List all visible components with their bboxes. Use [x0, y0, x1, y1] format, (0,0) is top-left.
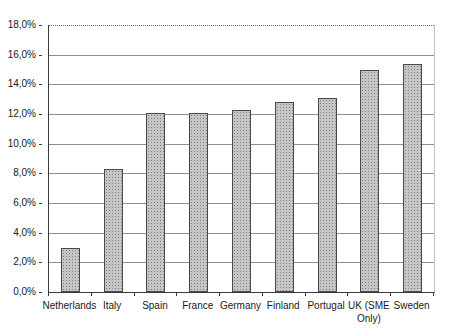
- y-axis-tick-label: 4,0%: [13, 228, 36, 238]
- x-axis-tick: [48, 293, 49, 296]
- y-axis-tick-label: 2,0%: [13, 257, 36, 267]
- x-axis-tick: [347, 293, 348, 296]
- y-axis-tick: [39, 173, 42, 174]
- bar-italy: [104, 169, 123, 292]
- y-axis-tick: [39, 144, 42, 145]
- gridline-16,0%: [49, 55, 434, 56]
- gridline-18,0%: [49, 25, 434, 26]
- x-axis-tick: [262, 293, 263, 296]
- y-axis-tick: [39, 25, 42, 26]
- y-axis-tick: [39, 262, 42, 263]
- x-axis-tick: [219, 293, 220, 296]
- x-axis: NetherlandsItalySpainFranceGermanyFinlan…: [48, 293, 434, 333]
- y-axis-tick-label: 16,0%: [8, 50, 36, 60]
- plot-area: [48, 25, 435, 293]
- y-axis-tick: [39, 203, 42, 204]
- x-axis-tick: [433, 293, 434, 296]
- y-axis-tick-label: 10,0%: [8, 139, 36, 149]
- bar-portugal: [318, 98, 337, 292]
- y-axis-tick: [39, 55, 42, 56]
- y-axis-tick-label: 8,0%: [13, 168, 36, 178]
- y-axis-tick-label: 18,0%: [8, 20, 36, 30]
- y-axis-tick: [39, 84, 42, 85]
- bar-chart: 0,0%2,0%4,0%6,0%8,0%10,0%12,0%14,0%16,0%…: [0, 0, 449, 336]
- y-axis-tick-label: 14,0%: [8, 79, 36, 89]
- y-axis-tick-label: 6,0%: [13, 198, 36, 208]
- x-axis-tick: [305, 293, 306, 296]
- bar-france: [189, 113, 208, 292]
- bar-sweden: [403, 64, 422, 292]
- y-axis-tick: [39, 114, 42, 115]
- y-axis: 0,0%2,0%4,0%6,0%8,0%10,0%12,0%14,0%16,0%…: [0, 25, 42, 292]
- y-axis-tick: [39, 233, 42, 234]
- y-axis-tick-label: 12,0%: [8, 109, 36, 119]
- bar-netherlands: [61, 248, 80, 293]
- x-axis-tick: [91, 293, 92, 296]
- x-axis-tick: [176, 293, 177, 296]
- bar-germany: [232, 110, 251, 292]
- x-axis-tick: [134, 293, 135, 296]
- x-axis-category-label: Sweden: [382, 299, 442, 312]
- bar-finland: [275, 102, 294, 292]
- bar-spain: [146, 113, 165, 292]
- bar-uk-sme-only: [360, 70, 379, 293]
- x-axis-tick: [390, 293, 391, 296]
- y-axis-tick: [39, 292, 42, 293]
- y-axis-tick-label: 0,0%: [13, 287, 36, 297]
